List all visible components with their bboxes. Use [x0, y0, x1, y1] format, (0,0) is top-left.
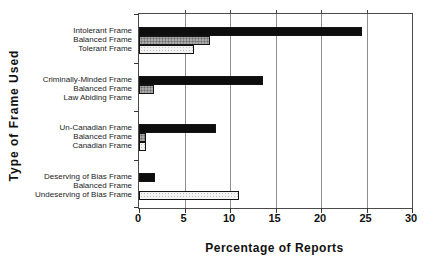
- gridline: [367, 14, 368, 208]
- x-axis-title: Percentage of Reports: [138, 241, 411, 255]
- axis-tick: [276, 10, 277, 14]
- category-label: Law Abiding Frame: [0, 93, 132, 102]
- bar-light: [139, 45, 194, 54]
- category-label: Balanced Frame: [0, 35, 132, 44]
- x-tick-label: 10: [223, 212, 235, 224]
- x-tick-label: 25: [359, 212, 371, 224]
- bar-light: [139, 142, 146, 151]
- bar-gray: [139, 85, 154, 94]
- category-label: Balanced Frame: [0, 132, 132, 141]
- x-tick-label: 5: [180, 212, 186, 224]
- x-tick-label: 0: [135, 212, 141, 224]
- plot-area: [138, 13, 413, 209]
- category-label: Criminally-Minded Frame: [0, 75, 132, 84]
- axis-tick: [321, 10, 322, 14]
- x-tick-label: 30: [405, 212, 417, 224]
- bar-black: [139, 27, 362, 36]
- x-tick-label: 15: [268, 212, 280, 224]
- x-tick-label: 20: [314, 212, 326, 224]
- category-label: Intolerant Frame: [0, 26, 132, 35]
- category-label: Tolerant Frame: [0, 44, 132, 53]
- category-label: Undeserving of Bias Frame: [0, 190, 132, 199]
- category-label: Balanced Frame: [0, 181, 132, 190]
- category-label: Canadian Frame: [0, 141, 132, 150]
- category-label: Un-Canadian Frame: [0, 123, 132, 132]
- category-label: Balanced Frame: [0, 84, 132, 93]
- axis-tick: [230, 10, 231, 14]
- gridline: [321, 14, 322, 208]
- bar-gray: [139, 36, 210, 45]
- bar-black: [139, 173, 155, 182]
- bar-chart-figure: Type of Frame Used Intolerant FrameBalan…: [0, 0, 438, 267]
- gridline: [276, 14, 277, 208]
- bar-light: [139, 191, 239, 200]
- category-label: Deserving of Bias Frame: [0, 172, 132, 181]
- axis-tick: [367, 10, 368, 14]
- bar-black: [139, 76, 263, 85]
- x-axis-tick-labels: 051015202530: [0, 212, 438, 226]
- category-labels: Intolerant FrameBalanced FrameTolerant F…: [0, 0, 135, 230]
- bar-gray: [139, 133, 146, 142]
- bar-black: [139, 124, 216, 133]
- axis-tick: [185, 10, 186, 14]
- gridline: [230, 14, 231, 208]
